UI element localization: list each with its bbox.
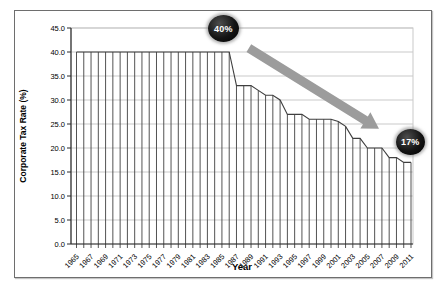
screenshot-root: 0.05.010.015.020.025.030.035.040.045.019… [0,0,447,297]
svg-text:5.0: 5.0 [55,216,65,225]
svg-text:45.0: 45.0 [50,24,65,33]
svg-text:0.0: 0.0 [55,240,65,249]
corporate-tax-rate-chart: 0.05.010.015.020.025.030.035.040.045.019… [15,11,431,277]
svg-text:10.0: 10.0 [50,192,65,201]
end-rate-badge: 17% [396,129,425,155]
svg-text:30.0: 30.0 [50,96,65,105]
svg-text:40.0: 40.0 [50,48,65,57]
svg-text:20.0: 20.0 [50,144,65,153]
x-axis-title: Year [71,261,413,272]
svg-text:35.0: 35.0 [50,72,65,81]
svg-text:25.0: 25.0 [50,120,65,129]
svg-text:15.0: 15.0 [50,168,65,177]
chart-figure: 0.05.010.015.020.025.030.035.040.045.019… [14,10,432,278]
y-axis-title: Corporate Tax Rate (%) [18,66,32,206]
